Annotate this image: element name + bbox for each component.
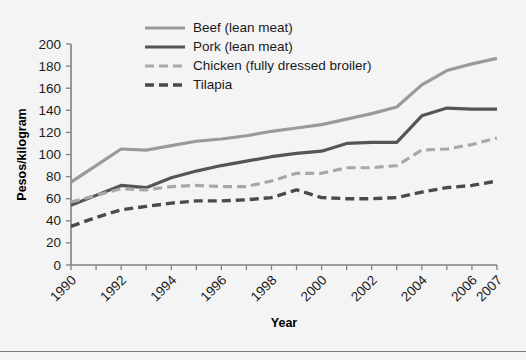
x-axis-tick-label: 2000 <box>298 273 330 305</box>
y-axis-title: Pesos/kilogram <box>15 108 29 200</box>
y-axis-tick-label: 80 <box>46 169 61 184</box>
x-axis-title: Year <box>271 316 298 330</box>
data-series-group <box>71 58 497 226</box>
y-axis-tick-label: 140 <box>38 103 61 118</box>
y-axis-tick-label: 20 <box>46 235 61 250</box>
x-axis-tick-label: 1990 <box>47 273 79 305</box>
line-chart: 020406080100120140160180200 199019921994… <box>0 0 526 360</box>
y-axis-tick-label: 100 <box>38 147 61 162</box>
x-axis-tick-label: 2007 <box>473 273 505 305</box>
x-axis-tick-label: 1994 <box>148 272 180 304</box>
legend-item-label: Chicken (fully dressed broiler) <box>193 58 372 73</box>
x-axis-tick-label: 1996 <box>198 273 230 305</box>
x-axis-tick-label: 2004 <box>398 272 430 304</box>
x-axis-tick-label: 2002 <box>348 273 380 305</box>
x-axis-tick-label: 2006 <box>448 273 480 305</box>
series-line <box>71 58 497 182</box>
legend-item-label: Pork (lean meat) <box>193 39 293 54</box>
y-axis-ticks: 020406080100120140160180200 <box>38 37 71 273</box>
bottom-divider <box>0 351 526 352</box>
y-axis-tick-label: 180 <box>38 59 61 74</box>
x-axis-ticks: 1990199219941996199820002002200420062007 <box>47 265 505 304</box>
y-axis-tick-label: 160 <box>38 81 61 96</box>
legend-item-label: Tilapia <box>193 77 233 92</box>
x-axis-tick-label: 1998 <box>248 273 280 305</box>
y-axis-tick-label: 60 <box>46 191 61 206</box>
y-axis-tick-label: 120 <box>38 125 61 140</box>
x-axis-tick-label: 1992 <box>97 273 129 305</box>
chart-figure: 020406080100120140160180200 199019921994… <box>0 0 526 360</box>
chart-legend: Beef (lean meat)Pork (lean meat)Chicken … <box>145 20 372 92</box>
y-axis-tick-label: 40 <box>46 213 61 228</box>
y-axis-tick-label: 0 <box>53 258 61 273</box>
y-axis-tick-label: 200 <box>38 37 61 52</box>
legend-item-label: Beef (lean meat) <box>193 20 293 35</box>
